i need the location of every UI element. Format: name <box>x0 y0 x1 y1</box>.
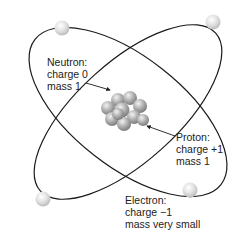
neutron-label: Neutron: charge 0 mass 1 <box>47 56 88 92</box>
nucleus <box>101 91 149 131</box>
proton-mass: mass 1 <box>176 155 223 167</box>
neutron-mass: mass 1 <box>47 80 88 92</box>
proton-label: Proton: charge +1 mass 1 <box>176 131 223 167</box>
electron-mass: mass very small <box>125 218 200 230</box>
proton-charge: charge +1 <box>176 143 223 155</box>
electron-bottom-left <box>36 192 51 207</box>
neutron-name: Neutron: <box>47 56 88 68</box>
neutron-charge: charge 0 <box>47 68 88 80</box>
proton-name: Proton: <box>176 131 223 143</box>
electron-top-right <box>206 15 221 30</box>
neutron-pointer <box>86 83 110 90</box>
electron-name: Electron: <box>125 194 200 206</box>
electron-top-left <box>55 21 70 36</box>
proton-pointer <box>147 126 175 136</box>
electron-charge: charge −1 <box>125 206 200 218</box>
electron-label: Electron: charge −1 mass very small <box>125 194 200 230</box>
